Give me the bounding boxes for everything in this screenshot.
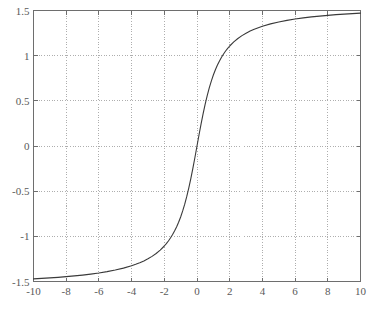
x-tick-label: 0 <box>194 286 200 297</box>
x-tick-label: 6 <box>292 286 298 297</box>
y-tick-label: 1.5 <box>16 5 30 16</box>
x-tick-label: -4 <box>127 286 136 297</box>
y-tick-label: -1 <box>20 231 29 242</box>
plot-svg <box>0 0 375 311</box>
x-tick-label: 4 <box>260 286 266 297</box>
x-tick-label: 10 <box>355 286 366 297</box>
y-tick-label: -0.5 <box>12 186 29 197</box>
y-tick-label: 0 <box>24 141 30 152</box>
chart-figure: -1.5-1-0.500.511.5 -10-8-6-4-20246810 <box>0 0 375 311</box>
x-tick-label: -10 <box>26 286 41 297</box>
x-tick-label: -8 <box>62 286 71 297</box>
x-tick-label: 2 <box>227 286 233 297</box>
y-tick-label: 0.5 <box>16 95 30 106</box>
y-tick-label: 1 <box>24 50 30 61</box>
x-tick-label: 8 <box>325 286 331 297</box>
x-tick-label: -2 <box>160 286 169 297</box>
x-tick-label: -6 <box>94 286 103 297</box>
